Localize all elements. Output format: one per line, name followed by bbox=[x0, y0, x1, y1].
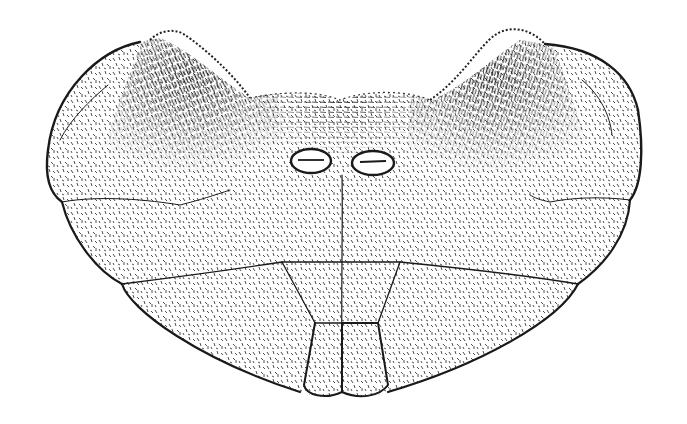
midline-suture bbox=[342, 175, 343, 392]
anatomical-illustration bbox=[0, 0, 687, 424]
right-opening bbox=[352, 151, 394, 175]
central-hair-band bbox=[250, 80, 440, 180]
left-opening bbox=[291, 149, 331, 173]
illustration-stage bbox=[0, 0, 687, 424]
